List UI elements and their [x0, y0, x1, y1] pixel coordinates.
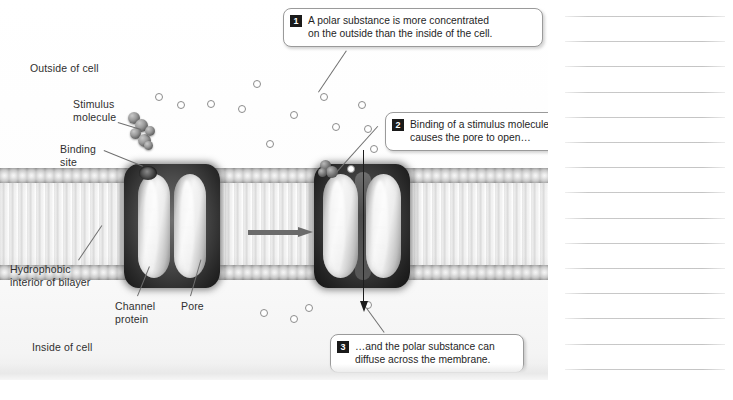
polar-substance-dot [253, 80, 261, 88]
note-line [565, 92, 725, 93]
protein-subunit-left-open [323, 174, 358, 278]
callout-3: 3 …and the polar substance can diffuse a… [330, 334, 524, 373]
note-lines-panel [548, 0, 733, 400]
lipid-heads-outer [0, 168, 548, 183]
binding-site-notch [139, 166, 157, 180]
polar-substance-dot [332, 123, 340, 131]
protein-subunit-right-open [366, 174, 401, 278]
note-line [565, 167, 725, 168]
figure-page: Outside of cell Stimulus molecule Bindin… [0, 0, 733, 400]
note-line [565, 41, 725, 42]
polar-substance-dot [260, 309, 268, 317]
note-line [565, 142, 725, 143]
channel-protein-closed [124, 164, 220, 288]
polar-substance-dot [238, 105, 246, 113]
outer-leaflet [0, 168, 548, 224]
polar-substance-dot [290, 111, 298, 119]
label-pore: Pore [181, 300, 204, 313]
leader-callout-1 [318, 51, 347, 93]
callout-2-number: 2 [392, 119, 404, 131]
label-outside-of-cell: Outside of cell [30, 62, 99, 75]
label-hydrophobic-interior: Hydrophobic interior of bilayer [10, 263, 90, 288]
callout-1: 1 A polar substance is more concentrated… [283, 8, 543, 47]
note-line [565, 218, 725, 219]
note-line [565, 117, 725, 118]
conformation-change-arrow [248, 228, 314, 237]
callout-2-text: Binding of a stimulus molecule causes th… [410, 118, 548, 144]
callout-3-number: 3 [337, 341, 349, 353]
note-line [565, 369, 725, 370]
leader-callout-3 [366, 308, 384, 333]
polar-substance-dot [290, 315, 298, 323]
note-line [565, 293, 725, 294]
stimulus-molecule-free [126, 112, 160, 152]
polar-substance-dot [358, 101, 366, 109]
callout-2: 2 Binding of a stimulus molecule causes … [385, 112, 548, 151]
note-line [565, 192, 725, 193]
polar-substance-dot [305, 304, 313, 312]
label-stimulus-molecule: Stimulus molecule [73, 98, 116, 123]
polar-substance-dot [207, 100, 215, 108]
polar-substance-dot [155, 93, 163, 101]
note-line [565, 243, 725, 244]
polar-substance-dot [347, 165, 355, 173]
membrane-illustration: Outside of cell Stimulus molecule Bindin… [0, 0, 548, 380]
protein-subunit-left-closed [138, 174, 170, 278]
note-line [565, 66, 725, 67]
note-line [565, 268, 725, 269]
callout-1-text: A polar substance is more concentrated o… [308, 14, 492, 40]
note-line [565, 16, 725, 17]
label-inside-of-cell: Inside of cell [32, 341, 92, 354]
note-line [565, 318, 725, 319]
callout-1-number: 1 [290, 15, 302, 27]
polar-substance-dot [266, 140, 274, 148]
note-line [565, 344, 725, 345]
label-channel-protein: Channel protein [115, 300, 155, 325]
diffusion-arrow [359, 150, 368, 312]
polar-substance-dot [320, 93, 328, 101]
polar-substance-dot [177, 101, 185, 109]
label-binding-site: Binding site [60, 143, 96, 168]
polar-substance-dot [370, 145, 378, 153]
lipid-tails-outer [0, 182, 548, 224]
protein-subunit-right-closed [174, 174, 206, 278]
callout-3-text: …and the polar substance can diffuse acr… [355, 340, 495, 366]
